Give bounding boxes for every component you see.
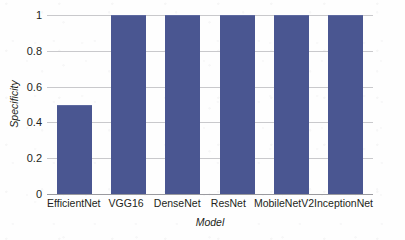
x-axis-tick-label: InceptionNet: [314, 197, 373, 209]
bar-chart-figure: Specificity 00.20.40.60.81 EfficientNetV…: [0, 0, 405, 240]
bar-slot: [156, 15, 210, 194]
bar: [165, 15, 200, 194]
y-axis-tick-label: 0.2: [0, 152, 42, 164]
bar-slot: [210, 15, 264, 194]
bar-slot: [264, 15, 318, 194]
bar: [328, 15, 363, 194]
x-axis-tick-label: DenseNet: [152, 197, 203, 209]
bar: [111, 15, 146, 194]
bar: [274, 15, 309, 194]
gridline: [47, 194, 373, 195]
x-axis-tick-label: VGG16: [101, 197, 152, 209]
x-axis-title: Model: [47, 216, 373, 228]
bar-slot: [47, 15, 101, 194]
bar-slot: [101, 15, 155, 194]
x-axis-tick-label: ResNet: [203, 197, 254, 209]
bar: [220, 15, 255, 194]
y-axis-tick-label: 0.8: [0, 45, 42, 57]
x-axis-tick-label: MobileNetV2: [254, 197, 314, 209]
y-axis-tick-label: 0.4: [0, 116, 42, 128]
bar-slot: [319, 15, 373, 194]
y-axis-tick-label: 0.6: [0, 81, 42, 93]
y-axis-tick-label: 0: [0, 188, 42, 200]
plot-area: [47, 15, 373, 194]
y-axis-tick-label: 1: [0, 9, 42, 21]
y-axis-tick-labels: 00.20.40.60.81: [0, 15, 42, 194]
x-axis-tick-label: EfficientNet: [47, 197, 101, 209]
bar: [57, 105, 92, 195]
x-axis-tick-labels: EfficientNetVGG16DenseNetResNetMobileNet…: [47, 197, 373, 209]
bar-series: [47, 15, 373, 194]
